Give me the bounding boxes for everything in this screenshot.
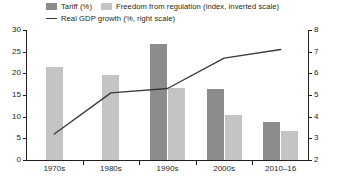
x-axis-tick: [139, 161, 140, 165]
y-left-label-10: 10: [12, 113, 21, 121]
x-axis-tick: [196, 161, 197, 165]
gdp-line-series: [26, 30, 309, 161]
legend-item-freedom: Freedom from regulation (index, inverted…: [101, 2, 279, 11]
y-right-tick: [309, 117, 312, 118]
legend-swatch-freedom-icon: [101, 3, 112, 10]
legend-swatch-tariff-icon: [46, 3, 57, 10]
y-right-label-8: 8: [314, 26, 318, 34]
x-axis-label-1970s: 1970s: [43, 164, 65, 173]
y-right-tick: [309, 30, 312, 31]
plot-area: 0 5 10 15 20 25 30 2 3 4 5 6 7 8: [26, 30, 309, 161]
y-right-label-3: 3: [314, 134, 318, 142]
legend-line-gdp-icon: [46, 18, 57, 19]
y-right-tick: [309, 160, 312, 161]
chart-figure: Tariff (%) Freedom from regulation (inde…: [0, 0, 342, 185]
y-left-label-15: 15: [12, 91, 21, 99]
y-left-label-25: 25: [12, 48, 21, 56]
y-right-label-2: 2: [314, 156, 318, 164]
y-left-label-5: 5: [17, 134, 21, 142]
legend-item-gdp: Real GDP growth (%, right scale): [46, 14, 175, 23]
x-axis-label-2010–16: 2010–16: [265, 164, 296, 173]
legend-label-gdp: Real GDP growth (%, right scale): [61, 14, 175, 23]
y-right-tick: [309, 95, 312, 96]
y-right-label-4: 4: [314, 113, 318, 121]
y-left-label-30: 30: [12, 26, 21, 34]
x-axis-label-1980s: 1980s: [100, 164, 122, 173]
x-axis-label-1990s: 1990s: [157, 164, 179, 173]
y-right-label-5: 5: [314, 91, 318, 99]
y-left-label-20: 20: [12, 69, 21, 77]
y-right-tick: [309, 52, 312, 53]
x-axis-tick: [252, 161, 253, 165]
chart-legend: Tariff (%) Freedom from regulation (inde…: [0, 0, 342, 24]
y-right-tick: [309, 73, 312, 74]
legend-item-tariff: Tariff (%): [46, 2, 92, 11]
x-axis-tick: [83, 161, 84, 165]
legend-label-freedom: Freedom from regulation (index, inverted…: [116, 2, 279, 11]
y-right-tick: [309, 138, 312, 139]
legend-label-tariff: Tariff (%): [61, 2, 92, 11]
y-right-label-7: 7: [314, 48, 318, 56]
y-right-label-6: 6: [314, 69, 318, 77]
y-left-label-0: 0: [17, 156, 21, 164]
x-axis-label-2000s: 2000s: [213, 164, 235, 173]
